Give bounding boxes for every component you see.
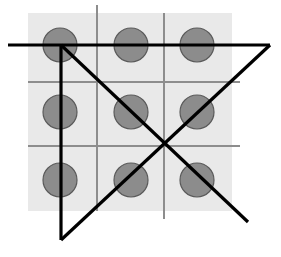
dot-r3c3-dot	[180, 163, 214, 197]
dot-r3c2-dot	[114, 163, 148, 197]
nine-dots-puzzle-figure	[0, 0, 281, 257]
puzzle-canvas	[0, 0, 281, 257]
